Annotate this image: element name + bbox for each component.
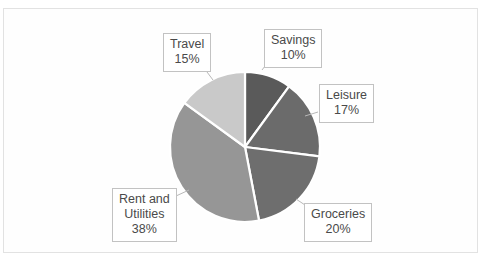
slice-label-rent-name-line2: Utilities xyxy=(119,207,170,222)
slice-label-leisure-name: Leisure xyxy=(326,88,367,103)
slice-label-leisure-percent: 17% xyxy=(326,103,367,118)
slice-label-travel-percent: 15% xyxy=(170,52,204,67)
slice-label-travel: Travel 15% xyxy=(163,33,211,72)
slice-label-groceries-name: Groceries xyxy=(311,207,365,222)
pie-chart-figure: Savings 10% Leisure 17% Groceries 20% Re… xyxy=(0,0,491,264)
slice-label-rent-percent: 38% xyxy=(119,222,170,237)
slice-label-savings-percent: 10% xyxy=(271,48,315,63)
pie-graphic xyxy=(0,0,491,264)
slice-label-leisure: Leisure 17% xyxy=(319,84,374,123)
slice-label-savings-name: Savings xyxy=(271,33,315,48)
slice-label-rent-name-line1: Rent and xyxy=(119,192,170,207)
slice-label-groceries: Groceries 20% xyxy=(304,203,372,242)
slice-label-savings: Savings 10% xyxy=(264,29,322,68)
slice-label-travel-name: Travel xyxy=(170,37,204,52)
slice-label-groceries-percent: 20% xyxy=(311,222,365,237)
slice-label-rent-and-utilities: Rent and Utilities 38% xyxy=(112,188,177,242)
